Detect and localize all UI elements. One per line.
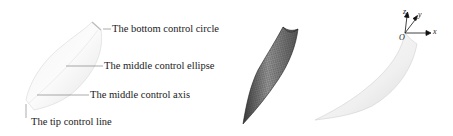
axis-label-x: x [433, 28, 437, 36]
panel-b-wireframe-mesh [243, 27, 298, 124]
label-bottom-control-circle: The bottom control circle [112, 24, 219, 35]
label-middle-control-axis: The middle control axis [90, 90, 190, 101]
label-tip-control-line: The tip control line [31, 117, 112, 128]
axis-label-z: z [403, 8, 406, 16]
panel-c-curved-surface [315, 33, 417, 120]
label-middle-control-ellipse: The middle control ellipse [104, 61, 215, 72]
axis-label-y: y [418, 11, 422, 19]
panel-a-spindle [26, 22, 111, 118]
axis-label-origin: O [399, 34, 405, 42]
